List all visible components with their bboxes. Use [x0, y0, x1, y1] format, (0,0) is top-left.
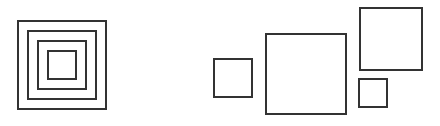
square-small-left — [213, 58, 253, 98]
nested-square-inner — [47, 50, 77, 80]
square-large-center — [265, 33, 347, 115]
figure-canvas — [0, 0, 440, 126]
square-medium-top-right — [359, 7, 423, 71]
square-tiny-bottom-right — [358, 78, 388, 108]
